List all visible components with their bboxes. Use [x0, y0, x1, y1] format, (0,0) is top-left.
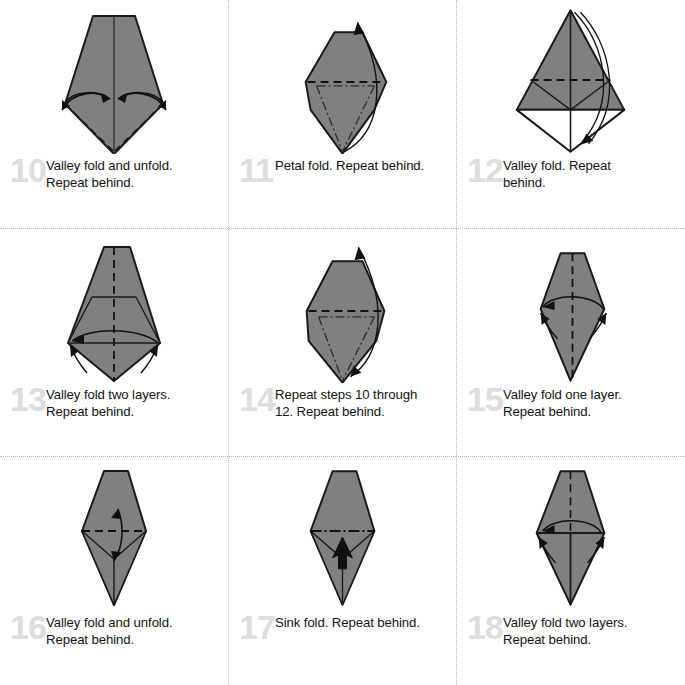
figure-step-11	[229, 2, 456, 154]
step-panel-12: 12 Valley fold. Repeat behind.	[456, 0, 685, 228]
step-number-10: 10	[0, 154, 46, 186]
origami-diagram-sheet: 10 Valley fold and unfold. Repeat behind…	[0, 0, 685, 685]
step-panel-17: 17 Sink fold. Repeat behind.	[228, 456, 456, 685]
figure-step-18	[457, 459, 685, 611]
step-number-18: 18	[457, 611, 503, 643]
step-panel-14: 14 Repeat steps 10 through 12. Repeat be…	[228, 228, 456, 456]
figure-step-10	[0, 2, 228, 154]
caption-line: Repeat behind.	[503, 404, 677, 421]
caption-step-18: 18 Valley fold two layers. Repeat behind…	[457, 611, 685, 671]
caption-text-16: Valley fold and unfold. Repeat behind.	[46, 611, 228, 648]
caption-text-11: Petal fold. Repeat behind.	[275, 154, 456, 175]
caption-text-10: Valley fold and unfold. Repeat behind.	[46, 154, 228, 191]
caption-line: Valley fold and unfold.	[46, 615, 220, 632]
step-panel-15: 15 Valley fold one layer. Repeat behind.	[456, 228, 685, 456]
step-number-11: 11	[229, 154, 275, 186]
step-panel-13: 13 Valley fold two layers. Repeat behind…	[0, 228, 228, 456]
step-number-14: 14	[229, 383, 275, 415]
caption-step-10: 10 Valley fold and unfold. Repeat behind…	[0, 154, 228, 214]
step-number-16: 16	[0, 611, 46, 643]
caption-step-12: 12 Valley fold. Repeat behind.	[457, 154, 685, 214]
caption-text-18: Valley fold two layers. Repeat behind.	[503, 611, 685, 648]
figure-step-15	[457, 231, 685, 383]
figure-step-16	[0, 459, 228, 611]
step-panel-11: 11 Petal fold. Repeat behind.	[228, 0, 456, 228]
figure-step-14	[229, 231, 456, 383]
caption-line: Petal fold. Repeat behind.	[275, 158, 448, 175]
step-panel-10: 10 Valley fold and unfold. Repeat behind…	[0, 0, 228, 228]
step-number-17: 17	[229, 611, 275, 643]
caption-step-14: 14 Repeat steps 10 through 12. Repeat be…	[229, 383, 456, 443]
caption-line: Valley fold and unfold.	[46, 158, 220, 175]
caption-text-12: Valley fold. Repeat behind.	[503, 154, 685, 191]
caption-text-15: Valley fold one layer. Repeat behind.	[503, 383, 685, 420]
step-number-12: 12	[457, 154, 503, 186]
caption-line: Repeat behind.	[46, 632, 220, 649]
caption-line: Sink fold. Repeat behind.	[275, 615, 448, 632]
caption-step-11: 11 Petal fold. Repeat behind.	[229, 154, 456, 214]
step-number-13: 13	[0, 383, 46, 415]
caption-line: behind.	[503, 175, 677, 192]
figure-step-17	[229, 459, 456, 611]
caption-line: Repeat behind.	[46, 175, 220, 192]
step-number-15: 15	[457, 383, 503, 415]
figure-step-13	[0, 231, 228, 383]
caption-step-15: 15 Valley fold one layer. Repeat behind.	[457, 383, 685, 443]
step-panel-18: 18 Valley fold two layers. Repeat behind…	[456, 456, 685, 685]
caption-step-17: 17 Sink fold. Repeat behind.	[229, 611, 456, 671]
caption-text-17: Sink fold. Repeat behind.	[275, 611, 456, 632]
caption-line: Repeat behind.	[46, 404, 220, 421]
caption-text-13: Valley fold two layers. Repeat behind.	[46, 383, 228, 420]
caption-step-16: 16 Valley fold and unfold. Repeat behind…	[0, 611, 228, 671]
caption-line: 12. Repeat behind.	[275, 404, 448, 421]
caption-line: Valley fold two layers.	[503, 615, 677, 632]
caption-line: Repeat behind.	[503, 632, 677, 649]
caption-line: Valley fold. Repeat	[503, 158, 677, 175]
figure-step-12	[457, 2, 685, 154]
step-panel-16: 16 Valley fold and unfold. Repeat behind…	[0, 456, 228, 685]
caption-line: Valley fold two layers.	[46, 387, 220, 404]
caption-line: Repeat steps 10 through	[275, 387, 448, 404]
caption-text-14: Repeat steps 10 through 12. Repeat behin…	[275, 383, 456, 420]
caption-line: Valley fold one layer.	[503, 387, 677, 404]
caption-step-13: 13 Valley fold two layers. Repeat behind…	[0, 383, 228, 443]
paper-shape-11	[306, 32, 387, 153]
